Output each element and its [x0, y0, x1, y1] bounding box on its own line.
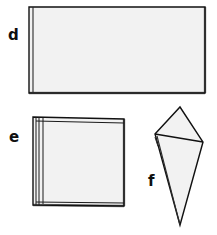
step-label-f: f	[148, 172, 155, 190]
step-e-group: e	[9, 117, 124, 206]
step-d-group: d	[8, 7, 205, 93]
step-d-paper-face	[29, 7, 205, 93]
step-f-group: f	[148, 107, 203, 225]
folding-steps-diagram: d e f	[0, 0, 217, 235]
step-e-paper-face	[33, 117, 124, 206]
figure-canvas: d e f	[0, 0, 217, 235]
step-label-d: d	[8, 26, 19, 44]
step-label-e: e	[9, 128, 19, 146]
